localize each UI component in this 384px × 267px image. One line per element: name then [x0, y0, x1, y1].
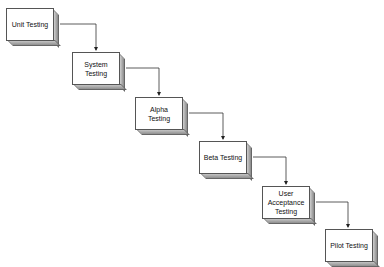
- stage-system-testing: System Testing: [72, 52, 120, 85]
- connector-5: [316, 202, 348, 227]
- connector-4: [253, 157, 286, 184]
- stage-label: User Acceptance Testing: [262, 186, 310, 219]
- testing-waterfall-diagram: Unit Testing System Testing Alpha Testin…: [0, 0, 384, 267]
- stage-label: Unit Testing: [6, 8, 54, 41]
- stage-user-acceptance-testing: User Acceptance Testing: [262, 186, 310, 219]
- connector-1: [60, 24, 96, 50]
- stage-label: Beta Testing: [199, 141, 247, 174]
- connector-2: [126, 68, 159, 95]
- stage-label: Pilot Testing: [325, 229, 373, 262]
- stage-alpha-testing: Alpha Testing: [135, 97, 183, 130]
- stage-label: Alpha Testing: [135, 97, 183, 130]
- connector-3: [189, 113, 223, 139]
- stage-beta-testing: Beta Testing: [199, 141, 247, 174]
- connectors: [0, 0, 384, 267]
- stage-unit-testing: Unit Testing: [6, 8, 54, 41]
- stage-label: System Testing: [72, 52, 120, 85]
- stage-pilot-testing: Pilot Testing: [325, 229, 373, 262]
